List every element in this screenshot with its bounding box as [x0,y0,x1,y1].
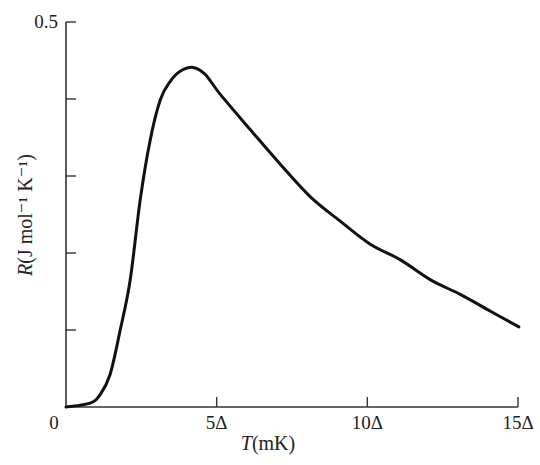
x-tick-label: 0 [49,412,59,433]
y-axis-title: R(J mol⁻¹ K⁻¹) [14,154,37,277]
y-tick-labels: 0.5 [34,11,58,32]
x-axis-title: T(mK) [241,432,295,455]
y-ticks [66,22,76,330]
axes [66,22,518,407]
x-tick-label: 15Δ [502,412,533,433]
y-tick-label: 0.5 [34,11,58,32]
data-curve [66,67,519,407]
x-tick-label: 10Δ [352,412,383,433]
x-ticks [217,397,518,407]
x-tick-label: 5Δ [206,412,228,433]
chart: 0.5 05Δ10Δ15Δ T(mK) R(J mol⁻¹ K⁻¹) [0,0,540,465]
x-tick-labels: 05Δ10Δ15Δ [49,412,533,433]
